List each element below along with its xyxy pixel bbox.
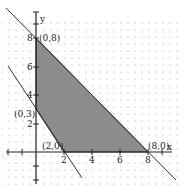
tick-y2: 2 xyxy=(27,119,33,129)
tick-x6: 6 xyxy=(117,155,123,165)
point-label-0-3: (0,3) xyxy=(14,109,35,119)
tick-y4: 4 xyxy=(27,90,33,100)
point-label-8-0: (8,0) xyxy=(148,141,169,151)
tick-x4: 4 xyxy=(89,155,95,165)
tick-x8: 8 xyxy=(145,155,151,165)
tick-x2: 2 xyxy=(61,155,67,165)
y-axis-label: y xyxy=(39,14,46,24)
tick-y6: 6 xyxy=(27,62,33,72)
tick-y8: 8 xyxy=(27,33,33,43)
point-label-2-0: (2,0) xyxy=(42,141,63,151)
feasible-region-chart: 8 6 4 2 2 4 6 8 y x (0,8) (0,3) (2,0) (8… xyxy=(0,0,189,188)
point-label-0-8: (0,8) xyxy=(39,33,60,43)
